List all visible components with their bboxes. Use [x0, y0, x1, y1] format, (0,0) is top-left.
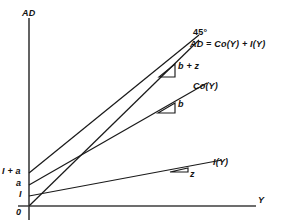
origin-label: 0	[16, 208, 21, 217]
y-axis-label: AD	[22, 9, 35, 18]
x-axis-label: Y	[258, 196, 264, 205]
slope-label-b: b	[178, 100, 184, 109]
forty-five-degree-label: 45°	[193, 28, 207, 37]
investment-line-label: I(Y)	[213, 158, 228, 167]
consumption-line-label: Co(Y)	[193, 82, 218, 91]
y-tick-label-i-plus-a: I + a	[2, 167, 21, 176]
ad-chart-figure: AD Y 0 I + a a I 45° AD = Co(Y) + I(Y) b…	[0, 0, 284, 220]
aggregate-demand-equation-label: AD = Co(Y) + I(Y)	[190, 40, 265, 49]
slope-label-z: z	[190, 170, 195, 179]
slope-label-b-plus-z: b + z	[178, 62, 199, 71]
y-tick-label-i: I	[19, 190, 22, 199]
y-tick-label-a: a	[16, 179, 21, 188]
slope-triangle-b	[158, 103, 175, 113]
chart-plot-area	[0, 0, 284, 220]
